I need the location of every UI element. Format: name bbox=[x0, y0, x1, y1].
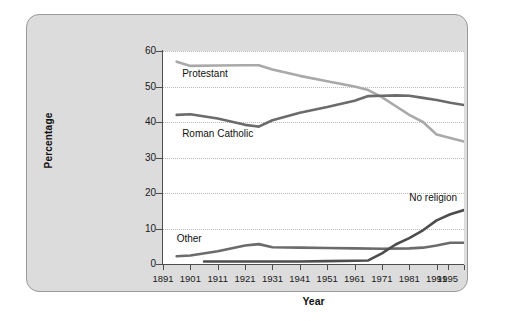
y-axis-tick bbox=[156, 158, 162, 159]
x-axis-tick bbox=[218, 265, 219, 270]
x-axis-tick bbox=[437, 265, 438, 270]
y-axis-tick bbox=[156, 229, 162, 230]
y-axis-tick bbox=[156, 122, 162, 123]
y-axis-title: Percentage bbox=[43, 96, 54, 186]
series-label-protestant: Protestant bbox=[182, 68, 228, 79]
x-axis-tick bbox=[272, 265, 273, 270]
x-axis-tick bbox=[448, 265, 449, 270]
x-axis-tick bbox=[300, 265, 301, 270]
x-axis-tick bbox=[190, 265, 191, 270]
x-axis-tick bbox=[464, 265, 465, 270]
y-axis-tick-label: 0 bbox=[132, 259, 156, 269]
x-axis-tick bbox=[327, 265, 328, 270]
y-axis-tick-label: 40 bbox=[132, 117, 156, 127]
x-axis-tick bbox=[355, 265, 356, 270]
x-axis-tick-label: 1995 bbox=[431, 273, 465, 284]
x-axis-tick bbox=[382, 265, 383, 270]
x-axis-tick bbox=[245, 265, 246, 270]
y-axis-tick-label: 20 bbox=[132, 188, 156, 198]
series-line-other bbox=[177, 243, 464, 256]
y-axis-tick bbox=[156, 87, 162, 88]
y-axis-tick-label: 10 bbox=[132, 224, 156, 234]
series-line-no-religion bbox=[204, 210, 464, 261]
x-axis-tick bbox=[409, 265, 410, 270]
x-axis-line bbox=[162, 264, 464, 265]
series-label-other: Other bbox=[177, 233, 202, 244]
y-axis-tick-label: 30 bbox=[132, 153, 156, 163]
y-axis-tick bbox=[156, 264, 162, 265]
series-label-roman-catholic: Roman Catholic bbox=[182, 128, 253, 139]
y-axis-tick-label: 60 bbox=[132, 46, 156, 56]
chart-figure: 0102030405060 18911901191119211931194119… bbox=[0, 0, 520, 321]
y-axis-tick bbox=[156, 51, 162, 52]
y-axis-tick-label: 50 bbox=[132, 82, 156, 92]
x-axis-tick bbox=[163, 265, 164, 270]
chart-panel: 0102030405060 18911901191119211931194119… bbox=[26, 14, 468, 292]
series-label-no-religion: No religion bbox=[409, 192, 457, 203]
y-axis-tick bbox=[156, 193, 162, 194]
series-lines bbox=[163, 51, 464, 264]
x-axis-title: Year bbox=[163, 295, 464, 307]
